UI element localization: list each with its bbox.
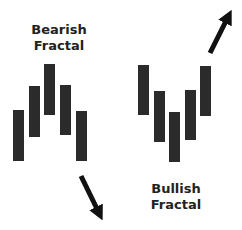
trend-arrows <box>0 0 242 230</box>
fractal-diagram: Bearish Fractal Bullish Fractal <box>0 0 242 230</box>
up-arrow-icon <box>210 15 229 53</box>
down-arrow-icon <box>81 176 100 215</box>
